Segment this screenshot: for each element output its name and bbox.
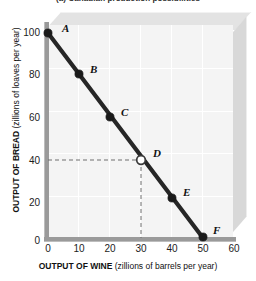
data-point-label-b: B: [90, 63, 97, 75]
data-point-label-e: E: [183, 186, 190, 198]
data-point-c: [106, 113, 114, 121]
ppf-line: [48, 33, 203, 238]
data-point-a: [44, 29, 52, 37]
data-point-f: [199, 233, 207, 241]
y-axis-title-unit: (zillions of loaves per year): [11, 27, 21, 128]
x-axis-title-main: OUTPUT OF WINE: [39, 261, 113, 271]
data-point-e: [168, 194, 176, 202]
y-axis-title: OUTPUT OF BREAD (zillions of loaves per …: [11, 15, 21, 225]
x-tick-label: 60: [219, 243, 249, 254]
y-axis-title-main: OUTPUT OF BREAD: [11, 131, 21, 213]
x-axis-title-unit: (zillions of barrels per year): [115, 261, 218, 271]
x-tick-label: 50: [188, 243, 218, 254]
data-point-label-a: A: [62, 22, 69, 34]
x-tick-label: 30: [126, 243, 156, 254]
data-point-label-f: F: [213, 224, 220, 236]
x-tick-label: 40: [157, 243, 187, 254]
x-tick-labels: 0 10 20 30 40 50 60: [0, 243, 256, 257]
data-point-b: [75, 70, 83, 78]
data-point-label-c: C: [121, 106, 128, 118]
x-axis-title: OUTPUT OF WINE (zillions of barrels per …: [0, 261, 256, 271]
data-point-label-d: D: [153, 147, 161, 159]
x-tick-label: 10: [64, 243, 94, 254]
data-point-d: [137, 156, 146, 165]
x-tick-label: 0: [33, 243, 63, 254]
production-possibilities-figure: (a) Canadian production possibilities: [0, 0, 256, 281]
x-tick-label: 20: [95, 243, 125, 254]
